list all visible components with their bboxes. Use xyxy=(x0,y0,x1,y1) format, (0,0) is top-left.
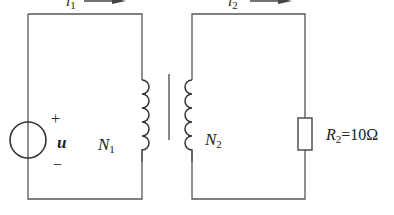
current-label-i2: i2 xyxy=(228,0,238,11)
primary-top-wire xyxy=(28,14,142,80)
load-resistor-label: R2=10Ω xyxy=(326,127,378,145)
source-plus-sign: + xyxy=(51,111,60,127)
circuit-diagram: i1 i2 + u − N1 N2 R2=10Ω xyxy=(0,0,394,215)
circuit-wires xyxy=(0,0,394,215)
current-label-i1: i1 xyxy=(66,0,76,11)
primary-bottom-wire xyxy=(28,14,142,199)
resistor-icon xyxy=(298,118,312,150)
primary-coil-icon xyxy=(142,80,149,162)
primary-winding-label: N1 xyxy=(98,136,115,155)
source-minus-sign: − xyxy=(53,157,62,173)
secondary-coil-icon xyxy=(185,80,192,162)
secondary-bottom-wire xyxy=(192,150,305,199)
secondary-top-wire xyxy=(192,14,305,118)
secondary-winding-label: N2 xyxy=(205,131,222,150)
source-voltage-label: u xyxy=(57,134,66,151)
